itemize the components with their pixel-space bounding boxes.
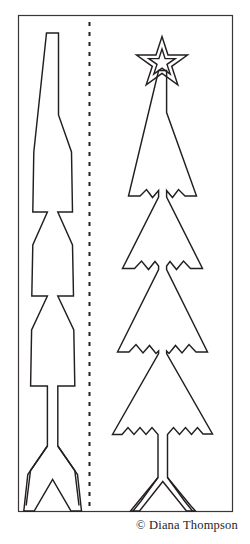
tree-pattern-drawing bbox=[0, 0, 250, 544]
page-background bbox=[0, 0, 250, 544]
copyright-credit: © Diana Thompson bbox=[0, 518, 238, 533]
cutting-template-page: © Diana Thompson bbox=[0, 0, 250, 544]
